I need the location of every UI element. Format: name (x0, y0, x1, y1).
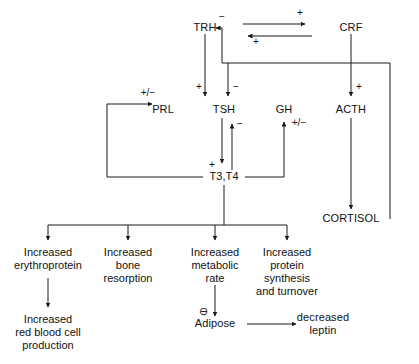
node-gh: GH (276, 103, 293, 116)
sign-tsh-to-t3t4: + (209, 160, 215, 170)
sign-adipose-inhibition: ⊖ (199, 306, 208, 316)
sign-top-right-arrow: + (297, 8, 303, 18)
node-t3t4: T3,T4 (209, 170, 238, 183)
outcome-metabolic-rate: Increased metabolic rate (191, 246, 239, 285)
sign-t3t4-to-prl: +/− (141, 88, 155, 98)
sign-t3t4-to-tsh: − (237, 119, 243, 129)
diagram-canvas: TRH CRF PRL TSH GH ACTH T3,T4 CORTISOL A… (0, 0, 419, 364)
node-prl: PRL (152, 103, 174, 116)
node-tsh: TSH (213, 103, 235, 116)
sign-top-left-arrow: + (253, 37, 259, 47)
edge-t3t4-to-gh (245, 122, 284, 177)
node-trh: TRH (194, 21, 217, 34)
node-decreased-leptin: decreased leptin (297, 311, 349, 336)
outcome-protein-synthesis: Increased protein synthesis and turnover (256, 246, 318, 298)
sign-t3t4-to-gh: +/− (292, 118, 306, 128)
node-cortisol: CORTISOL (323, 212, 380, 225)
outcome-erythroprotein: Increased erythroprotein (14, 246, 82, 272)
sign-cortisol-to-tsh: − (233, 82, 239, 92)
sign-trh-from-cortisol: − (219, 12, 225, 22)
sign-crf-to-acth: + (356, 82, 362, 92)
outcome-bone-resorption: Increased bone resorption (104, 246, 153, 285)
node-adipose: Adipose (195, 317, 235, 330)
sign-trh-to-tsh: + (196, 82, 202, 92)
outcome-red-blood-cell: Increased red blood cell production (15, 313, 80, 352)
node-acth: ACTH (336, 103, 366, 116)
node-crf: CRF (340, 21, 363, 34)
